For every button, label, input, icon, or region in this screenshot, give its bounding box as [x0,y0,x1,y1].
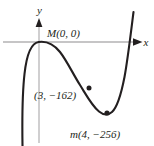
plot-canvas: y x M(0, 0) (3, −162) m(4, −256) [0,0,154,146]
minimum-point-label: m(4, −256) [70,128,121,141]
minimum-point-marker [104,110,109,115]
maximum-point-label: M(0, 0) [46,27,80,40]
y-axis-arrow-icon [36,18,43,27]
y-axis-label: y [36,4,42,16]
inflection-point-marker [87,86,92,91]
inflection-point-label: (3, −162) [34,89,77,102]
x-axis-label: x [143,36,149,48]
graph-figure: y x M(0, 0) (3, −162) m(4, −256) [0,0,154,146]
x-axis-arrow-icon [133,38,143,45]
